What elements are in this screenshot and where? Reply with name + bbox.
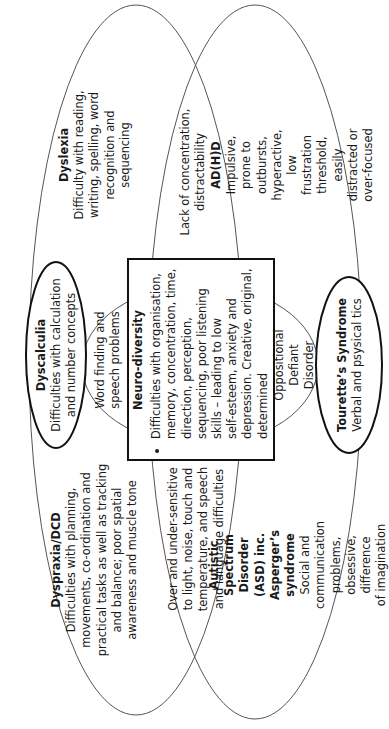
dyspraxia-label: Dyspraxia/DCD Difficulties with planning… bbox=[49, 464, 140, 656]
word-finding-label: Word finding and speech problems bbox=[93, 311, 123, 408]
asd-text: Social and communication problems, obses… bbox=[298, 521, 389, 609]
adhd-label: AD(H)D Impulsive, prone to outbursts, hy… bbox=[209, 119, 376, 211]
word-finding-text: Word finding and speech problems bbox=[93, 311, 123, 408]
oppositional-label: Oppositional Defiant Disorder bbox=[272, 320, 318, 410]
dyslexia-label: Dyslexia Difficulty with reading, writin… bbox=[57, 90, 133, 219]
tourettes-label: Tourette’s Syndrome Verbal and psysical … bbox=[335, 298, 365, 432]
neurodiversity-label: Neuro-diversity Difficulties with organi… bbox=[131, 265, 271, 455]
tourettes-title: Tourette’s Syndrome bbox=[335, 298, 350, 432]
concentration-text: Lack of concentration, distractability bbox=[178, 109, 208, 236]
neurodiversity-title: Neuro-diversity bbox=[131, 265, 146, 455]
dyslexia-text: Difficulty with reading, writing, spelli… bbox=[72, 90, 133, 219]
neurodiversity-list: Difficulties with organisation, memory, … bbox=[149, 265, 271, 455]
neurodiversity-bullet: Difficulties with organisation, memory, … bbox=[149, 265, 271, 439]
adhd-title: AD(H)D bbox=[209, 119, 224, 211]
oppositional-text: Oppositional Defiant Disorder bbox=[272, 320, 318, 410]
dyscalculia-title: Dyscalculia bbox=[34, 278, 49, 431]
asd-label: Autistic Spectrum Disorder (ASD) inc. As… bbox=[207, 521, 389, 609]
tourettes-text: Verbal and psysical tics bbox=[350, 298, 365, 432]
dyspraxia-text: Difficulties with planning, movements, c… bbox=[65, 464, 141, 656]
concentration-label: Lack of concentration, distractability bbox=[178, 109, 208, 236]
dyslexia-title: Dyslexia bbox=[57, 90, 72, 219]
dyscalculia-label: Dyscalculia Difficulties with calculatio… bbox=[34, 278, 80, 431]
dyscalculia-text: Difficulties with calculation and number… bbox=[49, 278, 79, 431]
dyspraxia-title: Dyspraxia/DCD bbox=[49, 464, 64, 656]
adhd-text: Impulsive, prone to outbursts, hyperacti… bbox=[225, 119, 377, 211]
asd-title: Autistic Spectrum Disorder (ASD) inc. As… bbox=[207, 521, 298, 609]
